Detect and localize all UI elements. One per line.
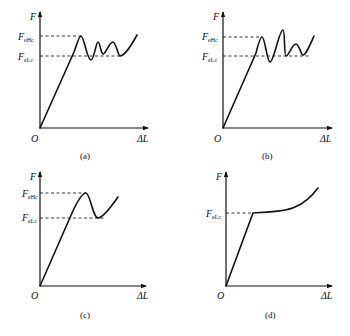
caption-a: (a) (80, 151, 90, 161)
lower-yield-label: FeLc (21, 212, 37, 224)
caption-d: (d) (265, 310, 276, 320)
chart-a: F FeHc FeLc O ΔL (a) (17, 11, 149, 161)
upper-yield-label: FeHc (17, 31, 34, 43)
lower-yield-label: FeLc (17, 51, 33, 63)
force-extension-curve (40, 35, 137, 128)
y-axis-label: F (215, 171, 223, 182)
x-axis-label: ΔL (136, 133, 149, 144)
x-axis-label: ΔL (320, 290, 333, 301)
lower-yield-label: FeLc (205, 208, 221, 220)
origin-label: O (217, 290, 224, 301)
y-axis-label: F (29, 11, 37, 22)
origin-label: O (214, 133, 221, 144)
yield-curves-figure: F FeHc FeLc O ΔL (a) F FeHc FeLc O ΔL (b… (0, 0, 350, 336)
lower-yield-label: FeLc (201, 51, 217, 63)
chart-c: F FeHc FeLc O ΔL (c) (21, 171, 149, 320)
upper-yield-label: FeHc (21, 188, 38, 200)
upper-yield-label: FeHc (201, 31, 218, 43)
chart-b: F FeHc FeLc O ΔL (b) (201, 11, 332, 161)
chart-d: F FeLc O ΔL (d) (205, 171, 333, 320)
force-extension-curve (226, 188, 318, 286)
origin-label: O (31, 290, 38, 301)
y-axis-label: F (212, 11, 220, 22)
y-axis-label: F (29, 171, 37, 182)
origin-label: O (31, 133, 38, 144)
caption-c: (c) (80, 310, 90, 320)
force-extension-curve (223, 30, 314, 128)
caption-b: (b) (262, 151, 273, 161)
x-axis-label: ΔL (319, 133, 332, 144)
x-axis-label: ΔL (136, 290, 149, 301)
force-extension-curve (40, 193, 118, 286)
